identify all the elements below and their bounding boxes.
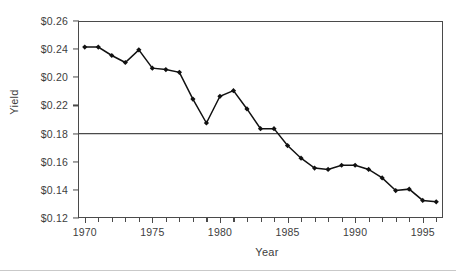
data-point-marker (339, 163, 344, 168)
x-tick-mark-minor (342, 218, 343, 222)
x-tick-mark-minor (301, 218, 302, 222)
x-tick-mark-major (355, 218, 356, 223)
data-point-marker (163, 67, 168, 72)
x-tick-mark-major (152, 218, 153, 223)
data-point-marker (434, 199, 439, 204)
data-point-marker (177, 70, 182, 75)
x-tick-label: 1990 (343, 226, 367, 238)
x-tick-label: 1995 (411, 226, 435, 238)
x-tick-mark-minor (247, 218, 248, 222)
x-tick-mark-minor (193, 218, 194, 222)
x-tick-mark-minor (436, 218, 437, 222)
x-tick-mark-minor (396, 218, 397, 222)
data-point-marker (325, 167, 330, 172)
bottom-divider (0, 270, 456, 271)
x-tick-mark-minor (139, 218, 140, 222)
x-tick-mark-major (85, 218, 86, 223)
x-tick-mark-minor (179, 218, 180, 222)
data-point-marker (353, 163, 358, 168)
data-point-marker (217, 94, 222, 99)
x-tick-mark-minor (98, 218, 99, 222)
x-tick-label: 1970 (73, 226, 97, 238)
x-tick-mark-minor (261, 218, 262, 222)
x-tick-mark-minor (206, 218, 207, 222)
x-tick-mark-minor (274, 218, 275, 222)
data-point-marker (82, 44, 87, 49)
x-tick-mark-minor (233, 218, 234, 222)
x-tick-mark-minor (382, 218, 383, 222)
x-tick-mark-minor (315, 218, 316, 222)
x-tick-mark-minor (166, 218, 167, 222)
x-tick-mark-minor (369, 218, 370, 222)
chart-figure: $0.26$0.24$0.20$0.22$0.18$0.16$0.14$0.12… (0, 0, 456, 274)
x-tick-mark-major (220, 218, 221, 223)
x-tick-label: 1980 (208, 226, 232, 238)
x-tick-mark-major (288, 218, 289, 223)
x-tick-mark-minor (112, 218, 113, 222)
x-tick-label: 1975 (140, 226, 164, 238)
x-tick-mark-minor (125, 218, 126, 222)
x-tick-mark-minor (409, 218, 410, 222)
x-tick-label: 1985 (275, 226, 299, 238)
x-tick-mark-minor (328, 218, 329, 222)
x-tick-mark-major (423, 218, 424, 223)
